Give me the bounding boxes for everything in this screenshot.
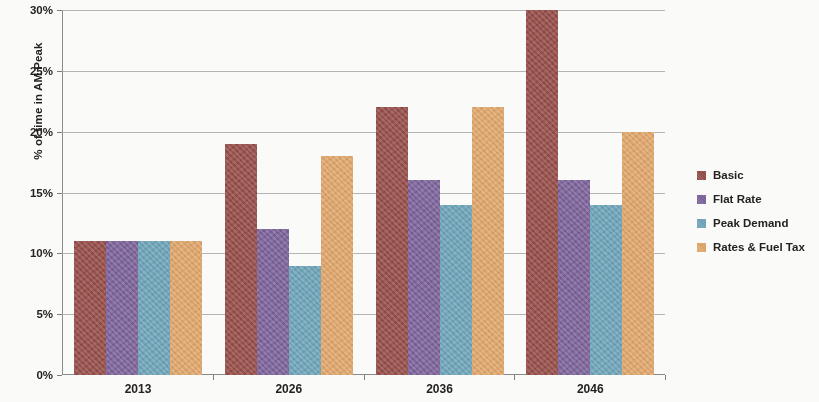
legend-swatch-icon	[697, 243, 706, 252]
y-tick-label: 15%	[30, 187, 53, 199]
bar[interactable]	[590, 205, 622, 375]
bar-group	[376, 10, 504, 375]
y-tick-label: 20%	[30, 126, 53, 138]
legend-swatch-icon	[697, 219, 706, 228]
x-tick-label: 2013	[125, 382, 152, 396]
bar[interactable]	[138, 241, 170, 375]
y-tick-label: 5%	[36, 308, 53, 320]
y-tick-mark	[57, 375, 62, 376]
y-tick-label: 10%	[30, 247, 53, 259]
bar[interactable]	[526, 10, 558, 375]
bar[interactable]	[408, 180, 440, 375]
legend-swatch-icon	[697, 195, 706, 204]
y-tick-label: 0%	[36, 369, 53, 381]
x-tick-label: 2046	[577, 382, 604, 396]
bar-group	[526, 10, 654, 375]
legend-swatch-icon	[697, 171, 706, 180]
bar[interactable]	[558, 180, 590, 375]
legend-label: Peak Demand	[713, 217, 788, 229]
bar[interactable]	[170, 241, 202, 375]
chart-legend: BasicFlat RatePeak DemandRates & Fuel Ta…	[697, 163, 819, 259]
bar[interactable]	[257, 229, 289, 375]
bar-group	[225, 10, 353, 375]
y-tick-label: 30%	[30, 4, 53, 16]
bar[interactable]	[225, 144, 257, 375]
x-tick-label: 2026	[275, 382, 302, 396]
legend-item[interactable]: Rates & Fuel Tax	[697, 235, 819, 259]
bars-layer	[62, 10, 665, 375]
legend-label: Rates & Fuel Tax	[713, 241, 805, 253]
legend-item[interactable]: Flat Rate	[697, 187, 819, 211]
x-tick-mark	[514, 375, 515, 380]
legend-item[interactable]: Peak Demand	[697, 211, 819, 235]
bar[interactable]	[622, 132, 654, 375]
bar-group	[74, 10, 202, 375]
bar[interactable]	[74, 241, 106, 375]
bar[interactable]	[440, 205, 472, 375]
bar[interactable]	[376, 107, 408, 375]
bar[interactable]	[472, 107, 504, 375]
x-tick-mark	[213, 375, 214, 380]
legend-label: Basic	[713, 169, 744, 181]
x-tick-mark	[665, 375, 666, 380]
chart-page: % of time in AM Peak 0%5%10%15%20%25%30%…	[0, 0, 819, 402]
x-tick-label: 2036	[426, 382, 453, 396]
x-tick-mark	[364, 375, 365, 380]
bar[interactable]	[289, 266, 321, 376]
y-tick-label: 25%	[30, 65, 53, 77]
bar[interactable]	[321, 156, 353, 375]
plot-area: 0%5%10%15%20%25%30%	[62, 10, 665, 375]
legend-label: Flat Rate	[713, 193, 762, 205]
y-axis-title: % of time in AM Peak	[32, 1, 44, 201]
legend-item[interactable]: Basic	[697, 163, 819, 187]
bar[interactable]	[106, 241, 138, 375]
